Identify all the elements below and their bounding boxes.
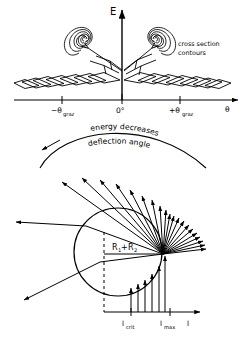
lens-chain-right: [124, 73, 231, 89]
energy-axis-label: E: [110, 6, 116, 17]
theta-tick-label-zero: 0°: [116, 106, 125, 115]
arc-label-energy-decreases: energy decreases: [90, 122, 160, 138]
svg-text:max: max: [164, 324, 175, 330]
arc-label-deflection-angle: deflection angle: [87, 136, 151, 149]
svg-text:2: 2: [134, 247, 137, 253]
svg-text:+θ: +θ: [169, 106, 180, 115]
theta-axis-ticks: [62, 94, 180, 104]
svg-text:l: l: [122, 319, 124, 328]
impact-tick-label-lcrit: l crit: [122, 319, 134, 330]
cross-section-contours-annotation: cross section contours: [178, 40, 220, 57]
svg-text:cross section: cross section: [178, 40, 220, 48]
peak-to-origin-arrows: [88, 48, 152, 71]
svg-text:contours: contours: [178, 49, 207, 57]
chevron-streaks-right: [124, 54, 156, 75]
lower-panel: energy decreases deflection angle R 1 + …: [16, 122, 206, 330]
svg-text:graz: graz: [182, 111, 194, 118]
figure-svg: E θ −θ graz 0° +θ graz: [0, 0, 249, 345]
impact-tick-label-lmax: l max: [160, 319, 175, 330]
right-contour-peak: [148, 27, 176, 55]
upper-panel: E θ −θ graz 0° +θ graz: [14, 6, 238, 118]
theta-axis-label: θ: [225, 105, 230, 114]
lens-chain-left: [14, 73, 120, 89]
radius-label: R 1 + R 2: [112, 243, 137, 253]
deflection-ray-fan: [62, 178, 206, 254]
chevron-streaks-left: [90, 56, 122, 74]
svg-text:+: +: [121, 243, 128, 252]
svg-text:graz: graz: [63, 111, 75, 118]
svg-text:l: l: [160, 319, 162, 328]
energy-direction-arrow: [42, 140, 60, 150]
svg-text:crit: crit: [126, 324, 134, 330]
left-contour-peak: [64, 27, 92, 55]
svg-text:−θ: −θ: [51, 106, 62, 115]
impact-axis-label: l: [187, 319, 189, 328]
theta-tick-label-neg-graz: −θ graz: [51, 106, 75, 118]
figure-root: E θ −θ graz 0° +θ graz: [0, 0, 249, 345]
theta-tick-label-pos-graz: +θ graz: [169, 106, 194, 118]
